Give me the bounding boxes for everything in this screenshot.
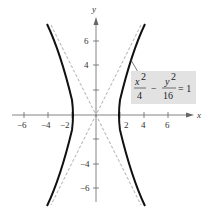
svg-text:2: 2 — [171, 71, 176, 82]
x-axis — [12, 113, 194, 118]
svg-text:y: y — [164, 76, 170, 87]
x-tick-label: 6 — [165, 120, 170, 130]
y-tick-label: −4 — [80, 159, 90, 169]
y-tick-label: 6 — [84, 36, 89, 46]
svg-text:16: 16 — [163, 90, 173, 101]
x-tick-label: 2 — [124, 120, 129, 130]
x-tick-label: −6 — [17, 120, 27, 130]
y-tick-label: −6 — [80, 183, 90, 193]
x-axis-label: x — [196, 110, 201, 120]
y-axis — [94, 17, 99, 202]
x-tick-label: −4 — [41, 120, 51, 130]
svg-text:x: x — [134, 76, 140, 87]
svg-text:2: 2 — [141, 71, 146, 82]
svg-text:4: 4 — [137, 90, 142, 101]
hyperbola-graph: x y −6 −4 −2 2 4 6 6 4 −4 −6 x 2 4 — [0, 0, 205, 213]
x-tick-label: 4 — [141, 120, 146, 130]
y-tick-label: 4 — [84, 60, 89, 70]
callout-pointer — [131, 60, 138, 72]
svg-text:= 1: = 1 — [178, 83, 191, 94]
svg-text:−: − — [151, 83, 157, 94]
x-tick-label: −2 — [60, 120, 70, 130]
y-axis-label: y — [91, 4, 96, 14]
